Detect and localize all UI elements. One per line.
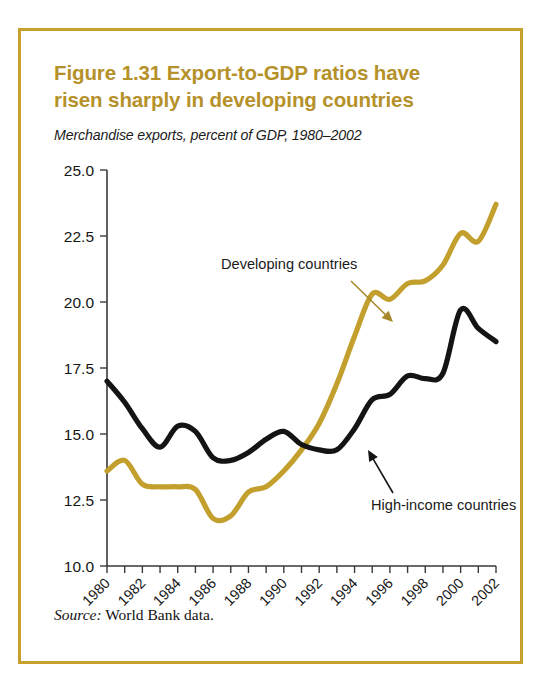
annotation-arrow-high-income-head bbox=[368, 450, 378, 462]
y-tick-label: 10.0 bbox=[64, 558, 95, 575]
source-note: Source: World Bank data. bbox=[54, 606, 214, 624]
x-tick-label: 1986 bbox=[185, 575, 219, 609]
x-tick-label: 1994 bbox=[327, 575, 361, 609]
series-line-developing-countries bbox=[107, 204, 496, 520]
series-line-high-income-countries bbox=[107, 308, 496, 461]
x-tick-label: 2000 bbox=[433, 575, 467, 609]
annotation-label-developing: Developing countries bbox=[221, 256, 357, 272]
y-tick-label: 20.0 bbox=[64, 294, 95, 311]
y-tick-label: 25.0 bbox=[64, 162, 95, 179]
x-tick-label: 2002 bbox=[468, 575, 502, 609]
x-tick-label: 1984 bbox=[150, 575, 184, 609]
line-chart: 25.022.520.017.515.012.510.0198019821984… bbox=[21, 31, 526, 667]
x-tick-label: 1982 bbox=[115, 575, 149, 609]
x-tick-label: 1992 bbox=[291, 575, 325, 609]
y-tick-label: 17.5 bbox=[64, 360, 94, 377]
source-label: Source: bbox=[54, 606, 102, 623]
chart-axes: 25.022.520.017.515.012.510.0198019821984… bbox=[64, 162, 502, 609]
x-tick-label: 1996 bbox=[362, 575, 396, 609]
x-tick-label: 1980 bbox=[79, 575, 113, 609]
x-tick-label: 1998 bbox=[397, 575, 431, 609]
figure-card: Figure 1.31 Export-to-GDP ratios have ri… bbox=[18, 28, 523, 664]
source-text: World Bank data. bbox=[102, 606, 214, 623]
annotation-arrow-high-income-shaft bbox=[373, 458, 393, 493]
chart-annotations: Developing countriesHigh-income countrie… bbox=[221, 256, 516, 513]
x-tick-label: 1988 bbox=[221, 575, 255, 609]
annotation-arrow-high-income bbox=[368, 450, 393, 493]
figure-body: Figure 1.31 Export-to-GDP ratios have ri… bbox=[21, 31, 520, 661]
chart-series bbox=[107, 204, 496, 520]
y-tick-label: 22.5 bbox=[64, 228, 94, 245]
y-tick-label: 12.5 bbox=[64, 492, 94, 509]
annotation-label-high-income: High-income countries bbox=[371, 497, 516, 513]
y-tick-label: 15.0 bbox=[64, 426, 95, 443]
x-tick-label: 1990 bbox=[256, 575, 290, 609]
